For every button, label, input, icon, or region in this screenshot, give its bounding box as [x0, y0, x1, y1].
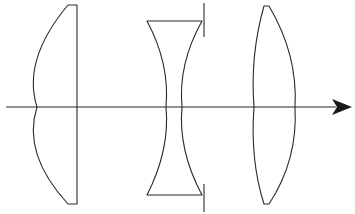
- lens-3-biconvex: [253, 6, 295, 204]
- lens-diagram: [0, 0, 355, 214]
- lens-2-biconcave: [147, 21, 202, 195]
- lens-1-plano-convex: [33, 5, 77, 204]
